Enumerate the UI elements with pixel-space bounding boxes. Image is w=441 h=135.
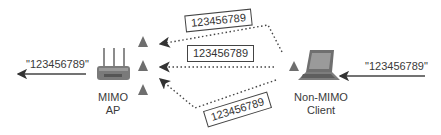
antenna-triangle-icon [138, 60, 148, 71]
ap-label-line1: MIMO [96, 91, 130, 104]
router-icon [97, 48, 130, 80]
middle-path-payload: 123456789 [187, 45, 254, 62]
laptop-icon [298, 50, 340, 80]
ap-label-line2: AP [96, 104, 130, 117]
ap-output-string: "123456789" [26, 58, 89, 70]
ap-antenna-triangles [138, 36, 148, 95]
client-antenna-triangle-icon [289, 61, 299, 71]
client-label-line2: Client [290, 104, 352, 117]
client-input-string: "123456789" [365, 60, 428, 72]
antenna-triangle-icon [138, 84, 148, 95]
antenna-triangle-icon [138, 36, 148, 47]
client-label-line1: Non-MIMO [290, 91, 352, 104]
